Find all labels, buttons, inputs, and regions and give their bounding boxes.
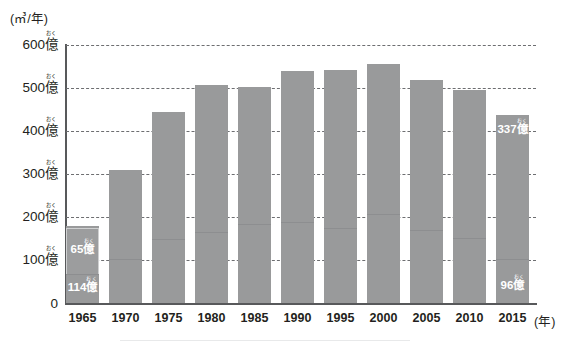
gridline-600 — [66, 45, 536, 46]
bar-1990-divider — [281, 222, 314, 223]
bar-1965-lower-label: 114おく億 — [66, 282, 99, 294]
bar-2015-lower-value: 96 — [501, 279, 514, 291]
x-axis-line — [65, 303, 537, 305]
bar-1965-upper-value: 65 — [71, 243, 84, 255]
bar-2015-lower-unit: おく億 — [513, 280, 524, 292]
bar-1990[interactable] — [281, 71, 314, 303]
bar-1965-lower-unit: おく億 — [86, 282, 97, 294]
y-tick-0: 0 — [0, 297, 58, 311]
y-tick-600-value: 600 — [22, 37, 45, 52]
bar-1985-divider — [238, 224, 271, 225]
y-tick-0-value: 0 — [50, 296, 58, 311]
bar-2015[interactable]: 337おく億 96おく億 — [496, 115, 529, 303]
bar-2015-upper-label: 337おく億 — [496, 124, 529, 136]
bar-1985[interactable] — [238, 87, 271, 303]
bar-1995[interactable] — [324, 70, 357, 304]
bar-1965-upper-unit: おく億 — [83, 244, 94, 256]
bar-1975[interactable] — [152, 112, 185, 303]
bar-1995-divider — [324, 228, 357, 229]
bar-2000[interactable] — [367, 64, 400, 303]
y-tick-400-unit: おく億 — [45, 124, 58, 138]
y-tick-600: 600おく億 — [0, 38, 58, 52]
bar-2010[interactable] — [453, 90, 486, 303]
bar-2000-divider — [367, 214, 400, 215]
x-tick-2015: 2015 — [488, 311, 538, 325]
y-tick-400-value: 400 — [22, 123, 45, 138]
y-tick-300-value: 300 — [22, 166, 45, 181]
x-axis-unit-label: (年) — [534, 311, 555, 330]
bar-2005[interactable] — [410, 80, 443, 303]
y-tick-600-unit: おく億 — [45, 38, 58, 52]
y-tick-100-value: 100 — [22, 252, 45, 267]
bar-1980[interactable] — [195, 85, 228, 303]
y-tick-300-unit: おく億 — [45, 167, 58, 181]
y-tick-300: 300おく億 — [0, 167, 58, 181]
y-tick-100: 100おく億 — [0, 253, 58, 267]
y-tick-200-unit: おく億 — [45, 210, 58, 224]
footer-divider — [120, 340, 410, 341]
y-tick-200-value: 200 — [22, 209, 45, 224]
bar-2015-upper-unit: おく億 — [517, 124, 528, 136]
y-axis-unit-label: (㎥/年) — [10, 8, 48, 27]
bar-2015-lower-label: 96おく億 — [496, 280, 529, 292]
bar-1965-upper-label: 65おく億 — [66, 244, 99, 256]
y-tick-500: 500おく億 — [0, 81, 58, 95]
plot-area: 65おく億 114おく億 — [66, 45, 536, 303]
bar-1975-divider — [152, 239, 185, 240]
bar-2005-divider — [410, 230, 443, 231]
bar-2015-upper-value: 337 — [497, 123, 516, 135]
bar-chart: (㎥/年) 600おく億 500おく億 400おく億 300おく億 200おく億… — [0, 0, 577, 344]
bar-2015-divider — [496, 259, 529, 260]
y-tick-200: 200おく億 — [0, 210, 58, 224]
bar-1980-divider — [195, 232, 228, 233]
y-tick-400: 400おく億 — [0, 124, 58, 138]
bar-1970-divider — [109, 259, 142, 260]
bar-1970[interactable] — [109, 170, 142, 303]
bar-2010-divider — [453, 238, 486, 239]
y-tick-100-unit: おく億 — [45, 253, 58, 267]
bar-1965-lower-value: 114 — [68, 281, 87, 293]
y-tick-500-unit: おく億 — [45, 81, 58, 95]
bar-1965[interactable]: 65おく億 114おく億 — [66, 226, 99, 303]
y-tick-500-value: 500 — [22, 80, 45, 95]
